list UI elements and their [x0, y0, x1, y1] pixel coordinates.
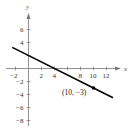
y-tick-label: −8 [16, 117, 24, 125]
y-axis-arrow-icon [27, 13, 31, 19]
x-tick-label: 8 [79, 72, 83, 80]
y-tick-label: 6 [20, 26, 24, 34]
data-point [92, 86, 96, 90]
x-axis-label: x [123, 65, 128, 73]
x-tick-label: 10 [90, 72, 98, 80]
y-tick-label: −2 [16, 78, 24, 86]
x-tick-label: 4 [53, 72, 57, 80]
x-tick-label: 2 [40, 72, 44, 80]
y-tick-label: −6 [16, 104, 24, 112]
y-tick-label: 4 [20, 39, 24, 47]
point-label: (10, −3) [62, 88, 87, 97]
y-tick-label: −4 [16, 91, 24, 99]
coordinate-plane: x y −2 2 4 8 10 12 6 4 −2 −4 −6 −8 (10, … [0, 0, 129, 136]
x-axis-arrow-icon [115, 67, 121, 71]
x-tick-label: 12 [103, 72, 111, 80]
y-axis-label: y [25, 3, 30, 11]
